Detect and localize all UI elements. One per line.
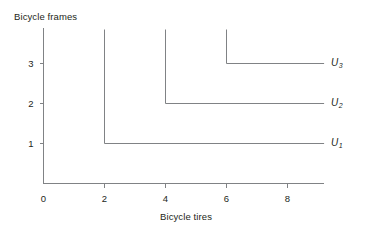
- curve-path: [105, 30, 325, 144]
- indifference-curve-chart: Bicycle frames Bicycle tires 123 02468 U…: [0, 0, 365, 242]
- indifference-curves-group: [105, 30, 325, 144]
- x-tick-label: 2: [97, 193, 113, 204]
- curve-label-U2: U2: [331, 97, 342, 108]
- curve-path: [166, 30, 325, 104]
- x-axis-title: Bicycle tires: [141, 211, 231, 222]
- indifference-curve-U3: [227, 30, 325, 64]
- x-tick-label: 8: [280, 193, 296, 204]
- indifference-curve-U1: [105, 30, 325, 144]
- curve-label-subscript: 2: [338, 102, 342, 109]
- curve-label-U3: U3: [331, 57, 342, 68]
- curve-path: [227, 30, 325, 64]
- y-axis-title: Bicycle frames: [14, 11, 77, 22]
- axes-group: [44, 28, 325, 184]
- x-tick-label: 6: [219, 193, 235, 204]
- indifference-curve-U2: [166, 30, 325, 104]
- y-tick-label: 3: [18, 58, 34, 69]
- axis-ticks-group: [40, 64, 288, 188]
- y-tick-label: 2: [18, 98, 34, 109]
- chart-canvas: [0, 0, 365, 242]
- curve-label-subscript: 1: [338, 142, 342, 149]
- curve-label-U1: U1: [331, 137, 342, 148]
- x-tick-label: 4: [158, 193, 174, 204]
- x-tick-label: 0: [36, 193, 52, 204]
- curve-label-subscript: 3: [338, 62, 342, 69]
- y-tick-label: 1: [18, 138, 34, 149]
